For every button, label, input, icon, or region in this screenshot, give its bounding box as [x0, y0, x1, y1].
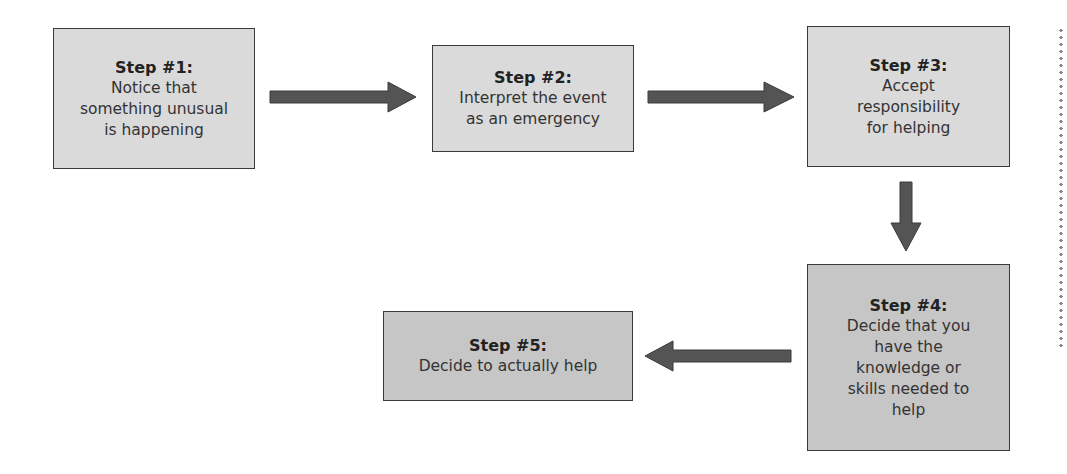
step-5-title: Step #5: — [469, 335, 547, 356]
step-2-title: Step #2: — [494, 67, 572, 88]
step-1-title: Step #1: — [115, 57, 193, 78]
arrow-down-icon — [889, 181, 923, 253]
step-2-text: Interpret the event as an emergency — [459, 88, 606, 130]
step-4-title: Step #4: — [870, 295, 948, 316]
step-5-text: Decide to actually help — [419, 356, 598, 377]
step-1-box: Step #1: Notice that something unusual i… — [53, 28, 255, 169]
arrow-right-icon — [646, 80, 796, 114]
step-3-title: Step #3: — [870, 55, 948, 76]
dotted-divider — [1059, 27, 1063, 349]
step-5-box: Step #5: Decide to actually help — [383, 311, 633, 401]
step-3-text: Accept responsibility for helping — [857, 76, 960, 139]
step-1-text: Notice that something unusual is happeni… — [80, 78, 228, 141]
arrow-left-icon — [643, 339, 793, 373]
step-4-text: Decide that you have the knowledge or sk… — [847, 316, 971, 421]
step-4-box: Step #4: Decide that you have the knowle… — [807, 264, 1010, 451]
arrow-right-icon — [268, 80, 418, 114]
step-2-box: Step #2: Interpret the event as an emerg… — [432, 45, 634, 152]
step-3-box: Step #3: Accept responsibility for helpi… — [807, 26, 1010, 167]
